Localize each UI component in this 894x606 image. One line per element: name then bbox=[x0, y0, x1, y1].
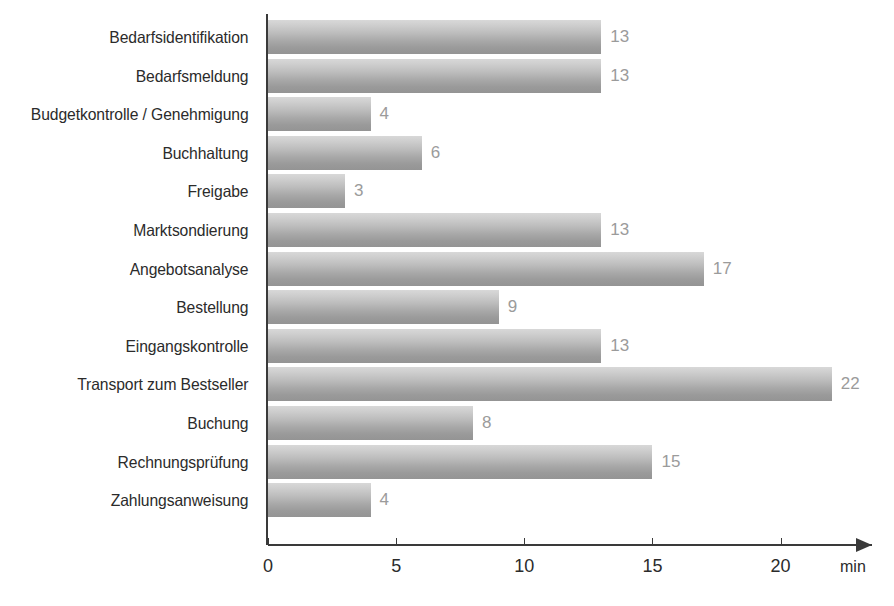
x-axis-tick bbox=[652, 538, 653, 545]
category-label: Transport zum Bestseller bbox=[13, 365, 258, 404]
category-label: Freigabe bbox=[13, 172, 258, 211]
bar-value-label: 13 bbox=[601, 20, 629, 54]
x-axis-tick-label: 0 bbox=[263, 556, 273, 577]
bar-chart: BedarfsidentifikationBedarfsmeldungBudge… bbox=[0, 0, 894, 606]
x-axis-tick bbox=[396, 538, 397, 545]
x-axis-tick bbox=[524, 538, 525, 545]
bar bbox=[268, 252, 704, 286]
category-label: Marktsondierung bbox=[13, 211, 258, 250]
bar-row: 3 bbox=[268, 172, 894, 211]
x-axis-tick-label: 10 bbox=[514, 556, 534, 577]
bar bbox=[268, 406, 473, 440]
category-label: Buchhaltung bbox=[13, 134, 258, 173]
bar-row: 6 bbox=[268, 134, 894, 173]
plot-area: 13134631317913228154 bbox=[268, 18, 894, 520]
bar-value-label: 15 bbox=[652, 445, 680, 479]
category-label: Zahlungsanweisung bbox=[13, 481, 258, 520]
category-label: Bedarfsmeldung bbox=[13, 57, 258, 96]
category-label: Budgetkontrolle / Genehmigung bbox=[13, 95, 258, 134]
bar-row: 4 bbox=[268, 95, 894, 134]
category-axis-labels: BedarfsidentifikationBedarfsmeldungBudge… bbox=[0, 18, 258, 520]
bar bbox=[268, 213, 601, 247]
bar-row: 13 bbox=[268, 211, 894, 250]
category-label: Bestellung bbox=[13, 288, 258, 327]
bar-row: 15 bbox=[268, 443, 894, 482]
category-label: Buchung bbox=[13, 404, 258, 443]
x-axis-arrow-icon bbox=[856, 538, 872, 552]
bar bbox=[268, 97, 371, 131]
bar-value-label: 17 bbox=[704, 252, 732, 286]
bar bbox=[268, 290, 499, 324]
x-axis-tick-label: 5 bbox=[391, 556, 401, 577]
bar-row: 17 bbox=[268, 250, 894, 289]
bar bbox=[268, 329, 601, 363]
x-axis-tick-label: 15 bbox=[642, 556, 662, 577]
bar-value-label: 3 bbox=[345, 174, 363, 208]
x-axis-unit-label: min bbox=[840, 558, 866, 576]
bar bbox=[268, 445, 652, 479]
bar bbox=[268, 59, 601, 93]
bar-value-label: 6 bbox=[422, 136, 440, 170]
category-label: Eingangskontrolle bbox=[13, 327, 258, 366]
bar-row: 13 bbox=[268, 327, 894, 366]
bar-value-label: 4 bbox=[371, 483, 389, 517]
x-axis-tick-label: 20 bbox=[771, 556, 791, 577]
category-label: Rechnungsprüfung bbox=[13, 443, 258, 482]
bar bbox=[268, 136, 422, 170]
bar-value-label: 9 bbox=[499, 290, 517, 324]
bar bbox=[268, 367, 832, 401]
bar-value-label: 8 bbox=[473, 406, 491, 440]
bar-row: 4 bbox=[268, 481, 894, 520]
x-axis-tick bbox=[268, 538, 269, 545]
bar bbox=[268, 20, 601, 54]
bar-row: 9 bbox=[268, 288, 894, 327]
bar-row: 22 bbox=[268, 365, 894, 404]
bar-row: 13 bbox=[268, 57, 894, 96]
bar bbox=[268, 174, 345, 208]
bar-value-label: 13 bbox=[601, 213, 629, 247]
bar bbox=[268, 483, 371, 517]
category-label: Angebotsanalyse bbox=[13, 250, 258, 289]
bar-row: 8 bbox=[268, 404, 894, 443]
bar-value-label: 13 bbox=[601, 59, 629, 93]
bar-row: 13 bbox=[268, 18, 894, 57]
bar-value-label: 13 bbox=[601, 329, 629, 363]
category-label: Bedarfsidentifikation bbox=[13, 18, 258, 57]
x-axis-tick bbox=[781, 538, 782, 545]
bar-value-label: 22 bbox=[832, 367, 860, 401]
bar-value-label: 4 bbox=[371, 97, 389, 131]
